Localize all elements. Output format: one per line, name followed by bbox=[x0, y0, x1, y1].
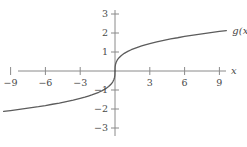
x-tick-label: 3 bbox=[147, 78, 153, 88]
x-tick-label: −3 bbox=[73, 78, 87, 88]
y-tick-label: 2 bbox=[102, 28, 108, 38]
x-tick-label: −6 bbox=[38, 78, 52, 88]
curve-branch-positive bbox=[115, 31, 226, 71]
plot-canvas bbox=[0, 0, 247, 147]
y-tick-label: −3 bbox=[94, 123, 108, 133]
x-tick-label: 9 bbox=[216, 78, 222, 88]
x-tick-label: 6 bbox=[182, 78, 188, 88]
y-tick-label: −2 bbox=[94, 104, 108, 114]
x-tick-label: −9 bbox=[4, 78, 18, 88]
curve-label: g(x) bbox=[232, 26, 247, 36]
y-tick-label: −1 bbox=[94, 85, 108, 95]
function-graph: −9−6−3369−3−2−1123 x g(x) bbox=[0, 0, 247, 147]
y-tick-label: 3 bbox=[102, 9, 108, 19]
y-tick-label: 1 bbox=[102, 47, 108, 57]
axes-group bbox=[11, 10, 226, 136]
x-axis-label: x bbox=[231, 66, 237, 76]
